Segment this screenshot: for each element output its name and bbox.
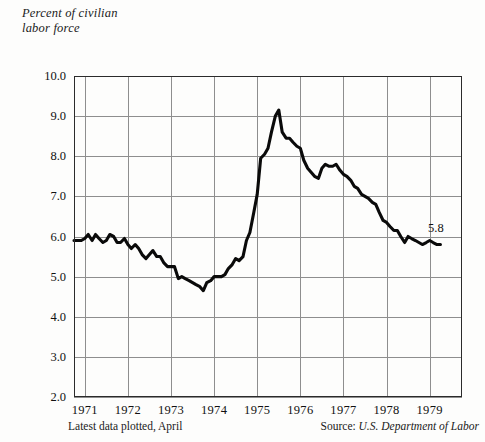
y-tick-label: 8.0 [8, 149, 66, 164]
y-tick-label: 9.0 [8, 109, 66, 124]
y-tick-label: 7.0 [8, 189, 66, 204]
footnote-source: Source: U.S. Department of Labor [321, 420, 479, 432]
end-value-label: 5.8 [428, 221, 444, 236]
axis-title-line-2: labor force [22, 21, 118, 36]
axis-title-line-1: Percent of civilian [22, 6, 118, 21]
x-tick-label: 1971 [72, 403, 98, 418]
y-tick-label: 10.0 [8, 69, 66, 84]
x-tick-label: 1973 [158, 403, 184, 418]
y-tick-label: 6.0 [8, 229, 66, 244]
chart-axis-title: Percent of civilian labor force [22, 6, 118, 36]
source-name: U.S. Department of Labor [359, 420, 479, 432]
plot-area [74, 76, 462, 397]
x-tick-label: 1978 [373, 403, 399, 418]
footnote-latest-data: Latest data plotted, April [68, 420, 182, 432]
plot-frame [74, 76, 462, 397]
x-tick-label: 1975 [244, 403, 270, 418]
y-tick-label: 4.0 [8, 309, 66, 324]
y-tick-label: 5.0 [8, 269, 66, 284]
x-tick-label: 1977 [330, 403, 356, 418]
y-tick-label: 3.0 [8, 349, 66, 364]
x-tick-label: 1974 [201, 403, 227, 418]
x-tick-label: 1979 [417, 403, 443, 418]
x-tick-label: 1976 [287, 403, 313, 418]
x-tick-label: 1972 [115, 403, 141, 418]
gridline-horizontal [74, 397, 462, 398]
source-prefix: Source: [321, 420, 356, 432]
